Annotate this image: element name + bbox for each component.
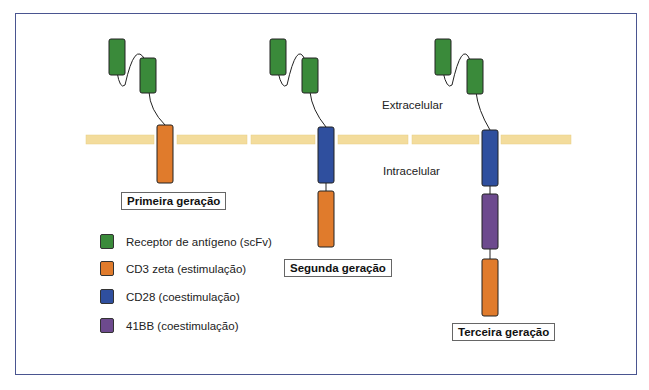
legend-item-cd28: CD28 (coestimulação) (100, 289, 240, 304)
first-generation-label: Primeira geração (121, 192, 226, 210)
legend-label: 41BB (coestimulação) (126, 320, 239, 332)
scfv-swatch-icon (100, 234, 114, 249)
first-generation-car (109, 39, 173, 183)
legend-label: CD3 zeta (estimulação) (126, 263, 246, 275)
cd28-swatch-icon (100, 289, 114, 304)
third-generation-label: Terceira geração (452, 323, 555, 341)
legend-item-scfv: Receptor de antígeno (scFv) (100, 234, 272, 249)
legend-label: CD28 (coestimulação) (126, 291, 240, 303)
second-generation-label: Segunda geração (284, 259, 392, 277)
extracellular-label: Extracelular (382, 99, 443, 111)
cd3-swatch-icon (100, 261, 114, 276)
legend-item-cd3: CD3 zeta (estimulação) (100, 261, 246, 276)
third-generation-car (435, 39, 498, 316)
legend-label: Receptor de antígeno (scFv) (126, 236, 272, 248)
intracellular-label: Intracelular (383, 165, 440, 177)
legend-item-41bb: 41BB (coestimulação) (100, 318, 239, 333)
41bb-swatch-icon (100, 318, 114, 333)
